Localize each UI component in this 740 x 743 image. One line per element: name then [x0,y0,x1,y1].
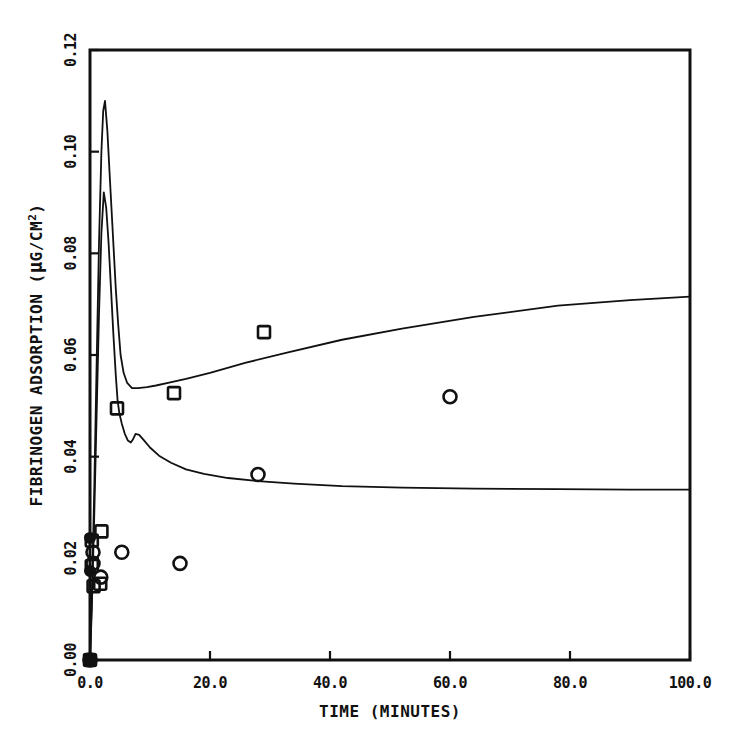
curve-upper-curve [90,101,690,660]
curve-lower-curve [90,192,690,660]
y-tick-label-0: 0.00 [62,642,80,677]
y-tick-label-3: 0.06 [62,337,80,372]
square-marker-8 [258,326,270,338]
fibrinogen-adsorption-chart: 0.020.040.060.080.0100.0 0.000.020.040.0… [0,0,740,743]
circle-marker-5 [174,557,187,570]
y-tick-label-group-4: 0.08 [62,236,80,271]
y-tick-label-6: 0.12 [62,33,80,67]
x-tick-label-3: 60.0 [433,674,468,692]
x-tick-label-5: 100.0 [669,674,712,692]
y-axis-title: FIBRINOGEN ADSORPTION (µG/CM2) [24,204,46,507]
chart-canvas: 0.020.040.060.080.0100.0 0.000.020.040.0… [0,0,740,743]
y-axis-tick-labels: 0.000.020.040.060.080.100.12 [62,33,80,677]
filled-marker-0 [85,655,95,665]
y-tick-label-group-1: 0.02 [62,541,80,575]
y-tick-label-5: 0.10 [62,134,80,169]
plot-frame [90,50,690,660]
square-marker-7 [168,387,180,399]
data-curves [90,101,690,660]
circle-marker-7 [444,390,457,403]
y-tick-label-4: 0.08 [62,236,80,271]
circle-marker-3 [115,546,128,559]
x-tick-label-2: 40.0 [313,674,348,692]
x-axis-title: TIME (MINUTES) [319,702,461,721]
data-point-markers [84,326,457,666]
y-tick-label-1: 0.02 [62,541,80,575]
y-axis-title-exponent: 2 [26,214,39,221]
y-tick-label-group-2: 0.04 [62,439,80,474]
x-tick-label-4: 80.0 [553,674,588,692]
x-tick-label-0: 0.0 [77,674,103,692]
y-axis-title-mu-symbol: µ [24,261,46,273]
y-tick-label-group-3: 0.06 [62,337,80,372]
y-axis-title-main: FIBRINOGEN ADSORPTION ( [27,273,46,506]
y-tick-label-2: 0.04 [62,439,80,474]
y-axis-title-close-paren: ) [27,204,46,214]
x-tick-label-1: 20.0 [193,674,228,692]
circle-marker-6 [252,468,265,481]
y-tick-label-group-5: 0.10 [62,134,80,169]
x-axis-tick-labels: 0.020.040.060.080.0100.0 [77,674,712,692]
y-axis-title-text: FIBRINOGEN ADSORPTION (µG/CM2) [24,204,46,507]
filled-marker-2 [85,566,95,576]
y-tick-label-group-0: 0.00 [62,642,80,677]
y-axis-title-units: G/CM [27,221,46,262]
y-tick-label-group-6: 0.12 [62,33,80,67]
filled-marker-1 [85,533,95,543]
square-marker-6 [111,402,123,414]
